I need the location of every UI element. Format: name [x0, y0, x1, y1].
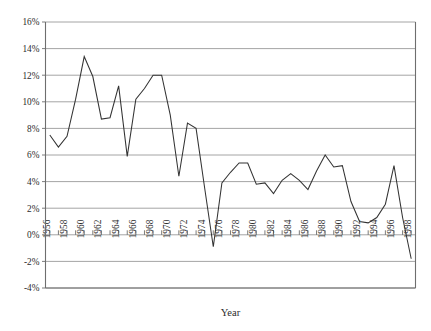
x-tick-label: 1978	[231, 219, 241, 238]
x-tick-label: 1982	[266, 219, 276, 238]
y-tick-label: 2%	[27, 204, 40, 214]
line-chart: 16%14%12%10%8%6%4%2%0%-2%-4% 19561958196…	[0, 0, 431, 331]
chart-container: 16%14%12%10%8%6%4%2%0%-2%-4% 19561958196…	[0, 0, 431, 331]
x-tick-label: 1984	[283, 219, 293, 238]
x-tick-label: 1990	[334, 219, 344, 238]
y-tick-label: 10%	[22, 97, 39, 107]
y-tick-label: 8%	[27, 124, 40, 134]
y-tick-label: 0%	[27, 230, 40, 240]
x-axis-title: Year	[221, 307, 241, 318]
y-tick-label: 12%	[22, 71, 39, 81]
x-tick-label: 1970	[162, 219, 172, 238]
x-tick-label: 1968	[145, 219, 155, 238]
x-tick-label: 1966	[128, 219, 138, 238]
y-tick-label: 4%	[27, 177, 40, 187]
y-axis-tick-labels: 16%14%12%10%8%6%4%2%0%-2%-4%	[22, 17, 39, 293]
x-tick-label: 1972	[179, 219, 189, 238]
y-tick-label: -2%	[24, 257, 40, 267]
x-axis-tick-labels: 1956195819601962196419661968197019721974…	[42, 219, 413, 238]
x-tick-label: 1994	[369, 219, 379, 238]
x-tick-label: 1962	[93, 219, 103, 238]
y-tick-label: -4%	[24, 283, 40, 293]
x-tick-label: 1974	[197, 219, 207, 238]
x-tick-label: 1956	[42, 219, 52, 238]
y-tick-label: 14%	[22, 44, 39, 54]
x-tick-label: 1958	[59, 219, 69, 238]
x-tick-label: 1980	[248, 219, 258, 238]
x-tick-label: 1992	[352, 219, 362, 238]
y-tick-label: 16%	[22, 17, 39, 27]
x-tick-label: 1960	[76, 219, 86, 238]
x-tick-label: 1988	[317, 219, 327, 238]
gridlines-group	[42, 22, 416, 288]
x-tick-label: 1996	[386, 219, 396, 238]
x-tick-label: 1964	[111, 219, 121, 238]
y-tick-label: 6%	[27, 150, 40, 160]
x-tick-label: 1986	[300, 219, 310, 238]
